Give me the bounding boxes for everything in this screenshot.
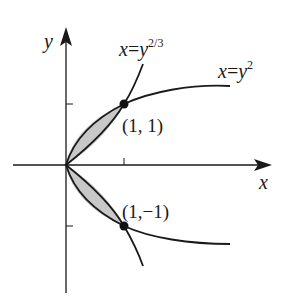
y-axis-label: y bbox=[42, 30, 53, 53]
intersection-point-lower bbox=[120, 222, 129, 231]
x-axis-label: x bbox=[258, 171, 268, 193]
curve-label-y-squared: x=y2 bbox=[217, 58, 253, 83]
shaded-region-lower-fill bbox=[66, 165, 124, 226]
point-label-upper: (1, 1) bbox=[122, 115, 163, 137]
point-label-lower: (1,−1) bbox=[122, 201, 169, 223]
area-between-curves-diagram: y x x=y2/3 x=y2 (1, 1) (1,−1) bbox=[0, 0, 290, 298]
intersection-point-upper bbox=[120, 100, 129, 109]
curve-label-y-two-thirds: x=y2/3 bbox=[118, 36, 163, 61]
shaded-region-upper-fill bbox=[66, 104, 124, 165]
